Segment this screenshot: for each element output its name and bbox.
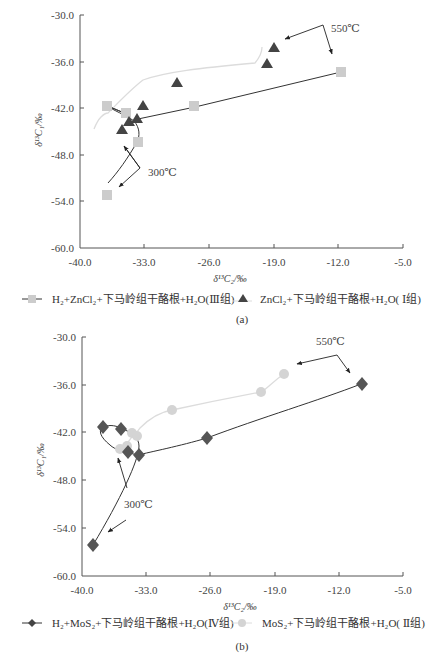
legend-diamond-icon: [28, 619, 36, 627]
chart-b-xlabel: δ¹³C₂/‰: [223, 601, 257, 612]
circle-marker: [279, 369, 289, 379]
diamond-marker: [201, 431, 213, 445]
chart-b-xtick: -33.0: [135, 584, 158, 596]
chart-b-xtick: -19.0: [264, 584, 287, 596]
square-marker: [102, 101, 112, 111]
diamond-marker: [356, 377, 368, 391]
chart-a-ytick: -60.0: [51, 242, 74, 254]
diamond-marker: [115, 422, 127, 436]
chart-b-series-4-markers: [87, 377, 368, 552]
chart-a-series-1-markers: [116, 42, 280, 134]
chart-b-xtick: -40.0: [71, 584, 94, 596]
square-marker: [121, 108, 131, 118]
chart-a: -30.0 -36.0 -42.0 -48.0 -54.0 -60.0 -40.…: [22, 9, 421, 326]
diamond-marker: [87, 538, 99, 552]
chart-b-xtick: -5.0: [394, 584, 412, 596]
chart-b-ytick: -30.0: [53, 331, 76, 343]
legend-triangle-icon: [238, 294, 248, 302]
diamond-marker: [133, 448, 145, 462]
chart-a-xtick: -26.0: [198, 256, 221, 268]
chart-a-xtick: -19.0: [263, 256, 286, 268]
legend-circle-icon: [238, 619, 246, 627]
chart-a-xtick: -5.0: [394, 256, 412, 268]
chart-a-ytick: -36.0: [51, 56, 74, 68]
chart-a-xtick: -12.0: [327, 256, 350, 268]
chart-a-xlabel: δ¹³C₂/‰: [213, 273, 247, 284]
chart-b-legend: H₂+MoS₂+下马岭组干酪根+H₂O(Ⅳ组) MoS₂+下马岭组干酪根+H₂O…: [22, 616, 425, 630]
chart-b-ytick: -42.0: [53, 426, 76, 438]
chart-a-xtick: -40.0: [69, 256, 92, 268]
circle-marker: [132, 431, 142, 441]
chart-a-series-3-line: [108, 72, 341, 183]
chart-b-ytick: -48.0: [53, 474, 76, 486]
chart-a-series-1-line: [94, 47, 262, 129]
chart-b-ylabel: δ¹³C₁/‰: [35, 443, 46, 477]
chart-b-annotation-550: 550℃: [316, 335, 345, 347]
chart-b-legend-label-1: H₂+MoS₂+下马岭组干酪根+H₂O(Ⅳ组): [52, 616, 234, 630]
chart-b-ytick: -54.0: [53, 522, 76, 534]
chart-a-ylabel: δ¹³C₁/‰: [33, 113, 44, 147]
chart-a-ytick: -42.0: [51, 102, 74, 114]
chart-b-ytick: -36.0: [53, 379, 76, 391]
legend-square-icon: [28, 295, 36, 303]
triangle-marker: [261, 58, 273, 68]
chart-a-axes: [80, 15, 403, 248]
square-marker: [133, 137, 143, 147]
square-marker: [102, 190, 112, 200]
chart-b-xtick: -26.0: [199, 584, 222, 596]
square-marker: [189, 101, 199, 111]
circle-marker: [167, 405, 177, 415]
chart-a-legend: H₂+ZnCl₂+下马岭组干酪根+H₂O(Ⅲ组) ZnCl₂+下马岭组干酪根+H…: [22, 292, 421, 306]
chart-a-ytick: -48.0: [51, 149, 74, 161]
chart-b-axes: [82, 337, 403, 576]
chart-b-series-2-markers: [115, 369, 289, 454]
square-marker: [336, 67, 346, 77]
chart-b-legend-label-2: MoS₂+下马岭组干酪根+H₂O( Ⅱ组): [262, 616, 425, 630]
figure: -30.0 -36.0 -42.0 -48.0 -54.0 -60.0 -40.…: [0, 0, 429, 669]
chart-a-annotation-300: 300℃: [148, 166, 177, 178]
chart-a-caption: (a): [236, 313, 249, 326]
chart-b-series-4-line: [93, 384, 361, 545]
triangle-marker: [137, 100, 149, 110]
diamond-marker: [97, 420, 109, 434]
chart-a-series-3-markers: [102, 67, 346, 200]
chart-b-annotation-300: 300℃: [124, 498, 153, 510]
chart-a-legend-label-1: H₂+ZnCl₂+下马岭组干酪根+H₂O(Ⅲ组): [52, 292, 235, 306]
chart-a-ytick: -30.0: [51, 9, 74, 21]
chart-a-arrows: [119, 25, 332, 187]
chart-a-legend-label-2: ZnCl₂+下马岭组干酪根+H₂O( Ⅰ组): [260, 292, 421, 306]
circle-marker: [256, 387, 266, 397]
chart-a-annotation-550: 550℃: [331, 22, 360, 34]
chart-b-xtick: -12.0: [328, 584, 351, 596]
triangle-marker: [268, 42, 280, 52]
chart-a-ytick: -54.0: [51, 195, 74, 207]
chart-a-xtick: -33.0: [133, 256, 156, 268]
chart-b-caption: (b): [236, 640, 249, 653]
chart-b: -30.0 -36.0 -42.0 -48.0 -54.0 -60.0 -40.…: [22, 331, 425, 653]
chart-b-ytick: -60.0: [53, 570, 76, 582]
triangle-marker: [171, 77, 183, 87]
